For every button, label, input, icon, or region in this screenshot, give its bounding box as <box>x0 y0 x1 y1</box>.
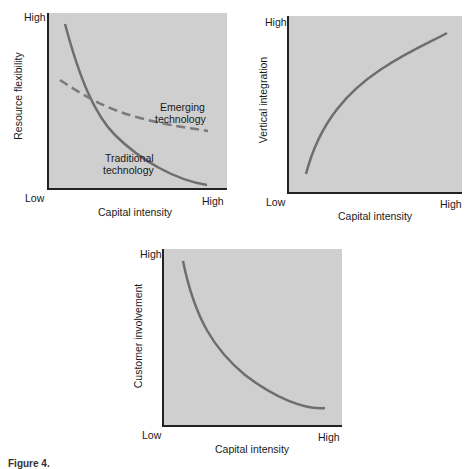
x-low-label: Low <box>142 429 161 441</box>
figure-caption: Figure 4. <box>8 458 50 469</box>
y-axis-label: Customer involvement <box>132 281 144 391</box>
customer-involvement-curve <box>183 261 325 408</box>
x-high-label: High <box>318 431 340 443</box>
y-high-label: High <box>140 248 162 260</box>
x-axis-label: Capital intensity <box>215 443 289 455</box>
